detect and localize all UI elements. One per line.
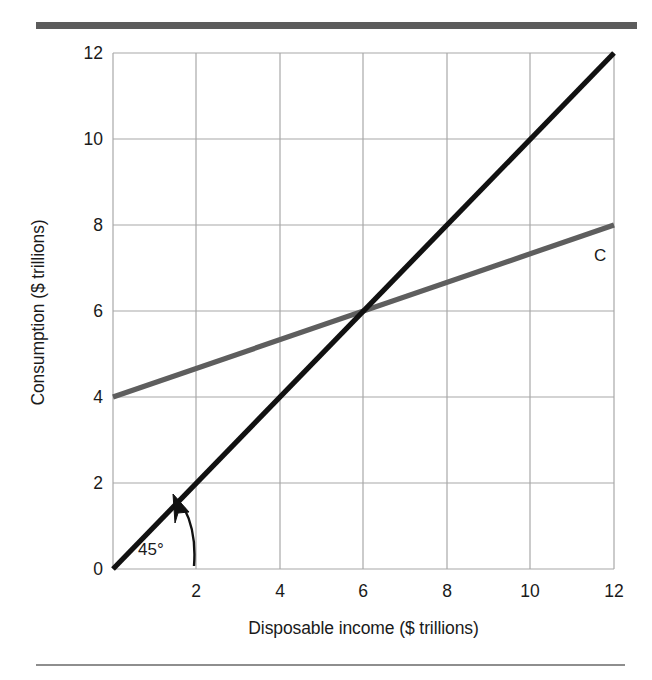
y-tick-label-0: 0 <box>63 559 103 580</box>
y-axis-title: Consumption ($ trillions) <box>28 173 49 453</box>
x-tick-label-6: 6 <box>343 581 383 602</box>
x-tick-label-12: 12 <box>594 581 634 602</box>
x-tick-label-4: 4 <box>260 581 300 602</box>
x-tick-label-8: 8 <box>427 581 467 602</box>
x-tick-label-2: 2 <box>176 581 216 602</box>
bottom-divider-rule <box>36 664 625 666</box>
y-tick-label-6: 6 <box>63 301 103 322</box>
figure-container: 12 10 8 6 4 2 0 2 4 6 8 10 12 C 45° Cons… <box>0 0 652 680</box>
plot-area: 12 10 8 6 4 2 0 2 4 6 8 10 12 C 45° Cons… <box>0 0 652 680</box>
angle-annotation-arrow <box>173 494 195 566</box>
series-label-consumption-function: C <box>594 246 606 266</box>
y-tick-label-12: 12 <box>63 43 103 64</box>
angle-annotation-label: 45° <box>138 540 164 560</box>
y-tick-label-2: 2 <box>63 473 103 494</box>
y-tick-label-8: 8 <box>63 215 103 236</box>
y-tick-label-10: 10 <box>63 129 103 150</box>
y-tick-label-4: 4 <box>63 387 103 408</box>
x-axis-title: Disposable income ($ trillions) <box>113 618 614 639</box>
x-tick-label-10: 10 <box>510 581 550 602</box>
